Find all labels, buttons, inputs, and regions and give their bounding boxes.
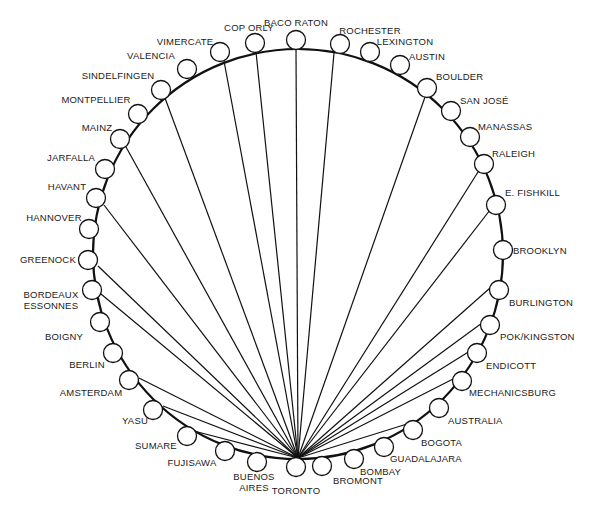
node-label: BERLIN (69, 359, 105, 370)
node-label: E. FISHKILL (505, 187, 560, 198)
node-burlington: BURLINGTON (490, 281, 574, 309)
node-circle (487, 196, 506, 215)
node-circle (468, 344, 487, 363)
node-label: AIRES (239, 482, 269, 493)
node-label: ESSONNES (24, 300, 78, 311)
node-circle (442, 102, 461, 121)
node-buenos-aires: BUENOSAIRES (233, 453, 274, 494)
node-label: BROOKLYN (513, 245, 567, 256)
node-circle (287, 31, 306, 50)
node-boigny: BOIGNY (45, 313, 110, 343)
node-label: GREENOCK (20, 254, 76, 265)
node-circle (490, 281, 509, 300)
node-label: SUMARE (135, 440, 177, 451)
node-label: TORONTO (272, 485, 321, 496)
node-label: AMSTERDAM (60, 387, 123, 398)
node-label: BROMONT (333, 475, 383, 486)
node-bordeaux-essonnes: BORDEAUXESSONNES (24, 281, 102, 312)
node-montpellier: MONTPELLIER (61, 94, 147, 124)
node-circle (391, 56, 410, 75)
node-raleigh: RALEIGH (475, 148, 536, 174)
node-circle (104, 344, 123, 363)
node-mechanicsburg: MECHANICSBURG (453, 372, 557, 399)
node-yasu: YASU (122, 401, 162, 427)
node-label: HANNOVER (26, 212, 81, 223)
node-amsterdam: AMSTERDAM (60, 371, 139, 399)
node-circle (120, 371, 139, 390)
node-circle (211, 43, 230, 62)
node-havant: HAVANT (48, 181, 106, 208)
node-san-jose: SAN JOSÉ (442, 95, 509, 121)
node-circle (248, 453, 267, 472)
ibm-network-ring-diagram: BACO RATONROCHESTERLEXINGTONAUSTINBOULDE… (0, 0, 589, 513)
node-fujisawa: FUJISAWA (168, 442, 235, 469)
node-label: HAVANT (48, 181, 86, 192)
link-toronto-rochester (298, 53, 334, 458)
node-australia: AUSTRALIA (430, 399, 504, 427)
node-circle (83, 281, 102, 300)
node-label: SAN JOSÉ (460, 95, 509, 106)
node-circle (216, 442, 235, 461)
node-circle (494, 241, 513, 260)
node-pok-kingston: POK/KINGSTON (481, 316, 575, 343)
node-circle (178, 427, 197, 446)
node-label: MECHANICSBURG (469, 387, 556, 398)
node-label: BURLINGTON (509, 297, 573, 308)
link-toronto-boulder (298, 97, 425, 458)
node-greenock: GREENOCK (20, 251, 97, 270)
node-circle (461, 128, 480, 147)
node-circle (87, 189, 106, 208)
node-label: SINDELFINGEN (82, 70, 155, 81)
node-circle (481, 316, 500, 335)
node-circle (79, 251, 98, 270)
node-endicott: ENDICOTT (468, 344, 537, 372)
node-label: BOIGNY (45, 331, 84, 342)
node-label: FUJISAWA (168, 457, 217, 468)
node-label: JARFALLA (47, 152, 96, 163)
node-circle (80, 220, 99, 239)
node-circle (475, 155, 494, 174)
link-toronto-baco-raton (296, 49, 298, 458)
node-label: BOULDER (436, 71, 483, 82)
node-label: COP ORLY (224, 22, 274, 33)
node-label: BORDEAUX (24, 289, 79, 300)
toronto-links (98, 49, 490, 458)
node-label: VALENCIA (127, 50, 175, 61)
node-circle (287, 458, 306, 477)
node-e-fishkill: E. FISHKILL (487, 187, 561, 215)
node-label: GUADALAJARA (390, 453, 462, 464)
node-label: VIMERCATE (157, 36, 214, 47)
node-boulder: BOULDER (418, 71, 484, 98)
node-mainz: MAINZ (82, 122, 130, 149)
node-label: RALEIGH (492, 148, 535, 159)
node-hannover: HANNOVER (26, 212, 98, 239)
node-circle (96, 160, 115, 179)
node-circle (129, 105, 148, 124)
node-circle (418, 79, 437, 98)
node-berlin: BERLIN (69, 344, 122, 371)
link-toronto-vimercate (224, 61, 298, 458)
node-manassas: MANASSAS (461, 121, 533, 147)
node-label: AUSTRALIA (448, 415, 503, 426)
node-jarfalla: JARFALLA (47, 152, 115, 179)
node-circle (313, 457, 332, 476)
node-label: ROCHESTER (339, 25, 400, 36)
node-circle (430, 399, 449, 418)
node-label: MAINZ (82, 122, 113, 133)
node-cop-orly: COP ORLY (224, 22, 274, 53)
node-label: POK/KINGSTON (500, 331, 575, 342)
node-label: BOGOTA (421, 437, 463, 448)
link-toronto-sindelfingen (165, 98, 298, 458)
node-brooklyn: BROOKLYN (494, 241, 567, 260)
node-label: BUENOS (233, 471, 274, 482)
node-circle (111, 130, 130, 149)
node-circle (246, 34, 265, 53)
node-circle (91, 313, 110, 332)
node-sumare: SUMARE (135, 427, 196, 452)
node-label: ENDICOTT (486, 360, 536, 371)
node-label: LEXINGTON (377, 36, 434, 47)
node-label: MONTPELLIER (61, 94, 130, 105)
node-label: YASU (122, 415, 148, 426)
node-circle (404, 421, 423, 440)
node-circle (331, 35, 350, 54)
